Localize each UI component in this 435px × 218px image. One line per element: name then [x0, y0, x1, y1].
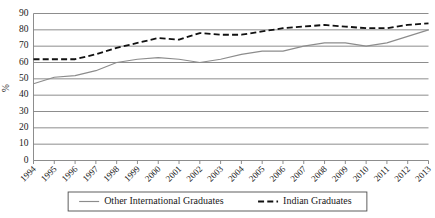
x-axis-tick-label: 1999	[122, 163, 142, 183]
line-chart: 0102030405060708090 19941995199619971998…	[0, 0, 435, 218]
gridlines	[34, 14, 429, 145]
chart-container: 0102030405060708090 19941995199619971998…	[0, 0, 435, 218]
x-axis-tick-label: 2007	[288, 163, 308, 183]
y-axis-tick-label: 60	[19, 57, 29, 67]
y-axis-title-text: %	[1, 84, 11, 92]
x-axis-tick-label: 2000	[143, 163, 163, 183]
x-axis-tick-label: 2004	[226, 163, 246, 183]
legend-label-2: Indian Graduates	[283, 195, 352, 206]
chart-legend: Other International GraduatesIndian Grad…	[68, 192, 367, 211]
x-axis-tick-label: 2005	[247, 163, 267, 183]
x-axis-tick-label: 2003	[205, 163, 225, 183]
data-series	[34, 23, 429, 83]
legend-label-1: Other International Graduates	[104, 195, 224, 206]
x-axis-tick-label: 2011	[372, 164, 392, 184]
y-axis-tick-label: 40	[19, 89, 29, 99]
y-axis-tick-label: 50	[19, 73, 29, 83]
x-axis-tick-label: 2008	[309, 163, 329, 183]
y-axis-tick-label: 70	[19, 40, 29, 50]
x-axis-tick-label: 1996	[60, 163, 80, 183]
series-line-1	[34, 30, 429, 84]
y-axis-title: %	[1, 84, 11, 92]
x-axis-tick-label: 1995	[39, 163, 59, 183]
x-axis-tick-label: 2012	[392, 164, 412, 184]
x-axis-tick-label: 1998	[101, 163, 121, 183]
y-axis-tick-label: 20	[19, 122, 29, 132]
x-axis-tick-label: 2009	[330, 163, 350, 183]
x-axis-tick-label: 1997	[80, 163, 100, 183]
x-axis-tick-label: 1994	[18, 163, 38, 183]
y-axis-tick-labels: 0102030405060708090	[19, 8, 29, 165]
y-axis-tick-label: 80	[19, 24, 29, 34]
x-axis-tick-label: 2001	[164, 164, 184, 184]
x-axis-tick-label: 2002	[184, 164, 204, 184]
x-axis-tick-labels: 1994199519961997199819992000200120022003…	[18, 163, 433, 183]
axes	[34, 14, 429, 161]
series-line-2	[34, 23, 429, 59]
y-axis-tick-label: 10	[19, 138, 29, 148]
y-axis-tick-label: 30	[19, 106, 29, 116]
y-axis-tick-label: 90	[19, 8, 29, 18]
x-axis-tick-label: 2010	[351, 163, 371, 183]
x-axis-tick-label: 2013	[413, 163, 433, 183]
x-axis-tick-label: 2006	[268, 163, 288, 183]
y-axis-tick-label: 0	[24, 155, 29, 165]
